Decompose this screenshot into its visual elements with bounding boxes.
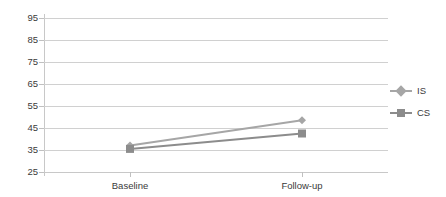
data-point-cs-1: [298, 130, 306, 138]
data-point-is-1: [298, 116, 306, 124]
data-point-cs-0: [126, 145, 134, 153]
legend-marker-square-icon: [390, 107, 412, 119]
legend-label-is: IS: [412, 86, 426, 96]
line-chart: 9585756555453525 BaselineFollow-up IS CS: [0, 0, 446, 197]
series-layer: [0, 0, 446, 197]
legend-marker-diamond-icon: [390, 85, 412, 97]
chart-legend: IS CS: [390, 80, 446, 124]
legend-item-cs[interactable]: CS: [390, 102, 446, 124]
legend-label-cs: CS: [412, 108, 430, 118]
legend-item-is[interactable]: IS: [390, 80, 446, 102]
